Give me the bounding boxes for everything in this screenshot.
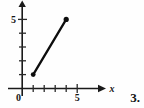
problem-number-label: 3. — [130, 91, 140, 104]
x-tick-label-5: 5 — [75, 92, 80, 103]
data-line-segment — [33, 19, 66, 74]
y-axis-arrow-icon — [19, 1, 26, 8]
x-axis-arrow-icon — [98, 85, 106, 92]
origin-label: 0 — [16, 92, 21, 103]
x-axis-label: x — [109, 83, 115, 94]
coordinate-plot: 0 5 5 x — [0, 0, 144, 108]
y-tick-label-5: 5 — [11, 14, 16, 25]
math-figure-panel: 0 5 5 x 3. — [0, 0, 144, 108]
data-point-start — [31, 72, 36, 77]
data-point-end — [64, 17, 69, 22]
